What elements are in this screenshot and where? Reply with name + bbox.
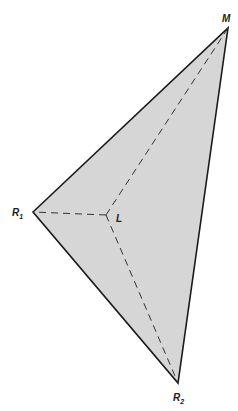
vertex-label-r1: R1 (12, 207, 23, 220)
triangle-face (33, 28, 228, 383)
vertex-label-r2: R2 (173, 392, 184, 405)
vertex-label-m: M (222, 13, 231, 24)
vertex-label-l: L (116, 213, 122, 224)
triangle-diagram: R1 M L R2 (0, 0, 238, 411)
